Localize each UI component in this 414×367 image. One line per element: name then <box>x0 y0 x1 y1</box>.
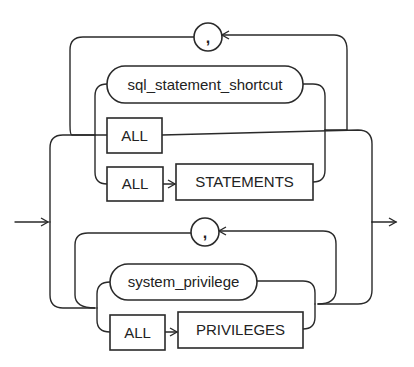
all-keyword-box: ALL <box>107 118 162 153</box>
upper-branch: , sql_statement_shortcut ALL ALL STATEME… <box>70 23 347 201</box>
statements-keyword-box: STATEMENTS <box>176 164 313 200</box>
svg-text:,: , <box>203 224 207 241</box>
svg-text:,: , <box>206 29 210 46</box>
lower-branch: , system_privilege ALL PRIVILEGES <box>75 218 336 350</box>
system-privilege-nonterminal: system_privilege <box>110 264 257 300</box>
all-statements-all-box: ALL <box>107 167 163 201</box>
svg-text:PRIVILEGES: PRIVILEGES <box>196 321 285 338</box>
svg-text:sql_statement_shortcut: sql_statement_shortcut <box>127 76 283 93</box>
privileges-keyword-box: PRIVILEGES <box>178 312 303 348</box>
svg-text:STATEMENTS: STATEMENTS <box>195 173 294 190</box>
syntax-diagram: , sql_statement_shortcut ALL ALL STATEME… <box>0 0 414 367</box>
svg-text:ALL: ALL <box>121 127 148 144</box>
svg-text:system_privilege: system_privilege <box>128 273 240 290</box>
all-privileges-all-box: ALL <box>110 315 165 350</box>
sql-statement-shortcut-nonterminal: sql_statement_shortcut <box>107 66 303 103</box>
svg-text:ALL: ALL <box>124 324 151 341</box>
svg-text:ALL: ALL <box>122 175 149 192</box>
lower-comma-separator: , <box>191 218 219 246</box>
upper-comma-separator: , <box>194 23 222 51</box>
